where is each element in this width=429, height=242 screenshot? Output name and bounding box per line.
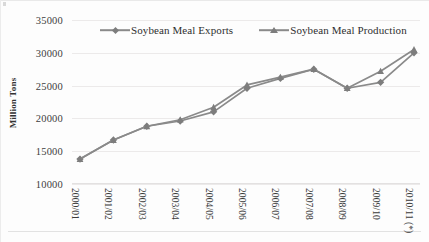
y-axis-tick-label: 10000 (36, 179, 63, 190)
y-axis-tick-label: 15000 (36, 146, 63, 157)
y-axis-tick-label: 20000 (36, 113, 63, 124)
series-layer (72, 20, 420, 184)
x-axis-tick-text: 2003/04 (170, 188, 180, 220)
x-axis-tick-label: 2007/08 (308, 186, 320, 242)
data-point-marker (411, 46, 418, 52)
chart-legend: Soybean Meal Exports Soybean Meal Produc… (100, 22, 407, 38)
legend-label-production: Soybean Meal Production (289, 24, 407, 36)
x-axis-tick-label: 2008/09 (341, 186, 353, 242)
x-axis-tick-label: 2010/11 (*) (408, 186, 420, 242)
gridline (72, 184, 420, 185)
x-axis-tick-text: 2009/10 (371, 188, 381, 220)
y-axis-tick-label: 25000 (36, 80, 63, 91)
y-axis-tick-labels: 100001500020000250003000035000 (0, 20, 68, 184)
x-axis-tick-text: 2005/06 (237, 188, 247, 220)
x-axis-tick-label: 2004/05 (208, 186, 220, 242)
x-axis-tick-text: 2006/07 (270, 188, 280, 220)
x-axis-tick-label: 2006/07 (274, 186, 286, 242)
legend-marker-triangle-icon (259, 25, 289, 35)
x-axis-tick-label: 2005/06 (241, 186, 253, 242)
x-axis-tick-label: 2009/10 (375, 186, 387, 242)
x-axis-tick-text: 2000/01 (70, 188, 80, 220)
y-axis-tick-label: 30000 (36, 47, 63, 58)
legend-item-exports[interactable]: Soybean Meal Exports (100, 24, 233, 36)
x-axis-tick-label: 2003/04 (174, 186, 186, 242)
x-axis-tick-text: 2004/05 (204, 188, 214, 220)
plot-area (72, 20, 420, 184)
legend-item-production[interactable]: Soybean Meal Production (259, 24, 407, 36)
x-axis-tick-labels: 2000/012001/022002/032003/042004/052005/… (72, 186, 420, 242)
series-line-exports (80, 53, 414, 159)
x-axis-tick-text: 2001/02 (103, 188, 113, 220)
x-axis-tick-label: 2001/02 (107, 186, 119, 242)
x-axis-tick-text: 2007/08 (304, 188, 314, 220)
x-axis-tick-text: 2010/11 (*) (404, 188, 414, 233)
x-axis-tick-text: 2008/09 (337, 188, 347, 220)
y-axis-tick-label: 35000 (36, 15, 63, 26)
x-axis-tick-label: 2002/03 (141, 186, 153, 242)
x-axis-tick-label: 2000/01 (74, 186, 86, 242)
legend-marker-diamond-icon (100, 25, 130, 35)
series-line-production (80, 50, 414, 160)
page-edge-top (0, 0, 429, 1)
chart-figure: Million Tons 100001500020000250003000035… (0, 0, 429, 242)
scan-artifact (3, 2, 6, 6)
x-axis-tick-text: 2002/03 (137, 188, 147, 220)
legend-label-exports: Soybean Meal Exports (130, 24, 233, 36)
